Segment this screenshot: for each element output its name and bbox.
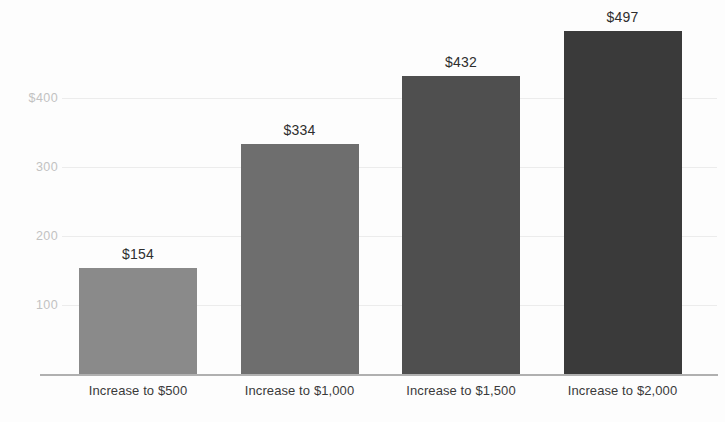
x-axis-category-label: Increase to $1,000	[245, 383, 355, 398]
x-axis-category-label: Increase to $500	[89, 383, 187, 398]
category-label-layer: Increase to $500Increase to $1,000Increa…	[0, 0, 725, 422]
x-axis-category-label: Increase to $2,000	[568, 383, 678, 398]
plot-area: 100200300$400 $154$334$432$497 Increase …	[0, 0, 725, 422]
x-axis-category-label: Increase to $1,500	[406, 383, 516, 398]
bar-chart: 100200300$400 $154$334$432$497 Increase …	[0, 0, 725, 422]
